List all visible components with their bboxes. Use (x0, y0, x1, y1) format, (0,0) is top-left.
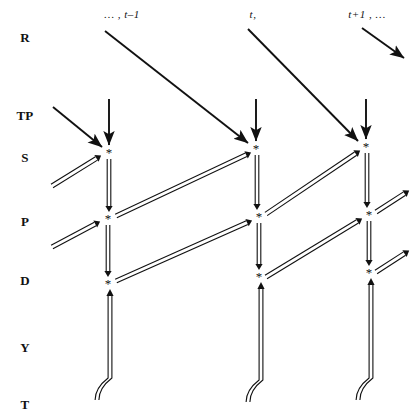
diagram-canvas: RTPSPDYT … , t–1t,t+1 , … ********* (0, 0, 414, 415)
edge-p-t-to-d-tplus1-rail-1 (267, 223, 358, 279)
row-label-s: S (21, 150, 29, 166)
arrowhead-s-tplus1-out (402, 190, 409, 197)
node-s-t: * (253, 142, 260, 155)
arrowhead-p-tplus1-out (402, 250, 409, 257)
node-p-t-minus-1: * (105, 212, 112, 225)
edge-in-to-s-t-minus-1-rail-1 (53, 160, 97, 188)
column-header-t: t, (250, 8, 257, 20)
column-header-t-minus-1: … , t–1 (104, 8, 140, 20)
edge-p-t-to-d-tplus1-rail-0 (265, 220, 356, 276)
column-header-t-plus-1: t+1 , … (348, 8, 386, 20)
edge-r-t-to-s-tplus1 (248, 29, 358, 141)
edge-s-tplus1-out-rail-0 (375, 192, 404, 210)
edge-in-to-s-t-minus-1-rail-0 (51, 157, 95, 185)
edge-r-tplus1-outgoing (362, 28, 404, 58)
row-label-d: D (20, 273, 30, 289)
edge-in-to-p-t-minus-1-rail-1 (53, 226, 96, 249)
edge-t-to-d-t-rail-1 (250, 289, 263, 402)
row-label-p: P (21, 214, 29, 230)
diagram-svg (0, 0, 414, 415)
arrowhead-s-t-to-p-tplus1 (353, 150, 360, 157)
node-d-t: * (256, 270, 263, 283)
feedback-edges-from-t (95, 278, 375, 402)
arrowhead-in-to-s-t-minus-1 (94, 155, 101, 162)
row-label-t: T (21, 397, 30, 413)
edge-p-tplus1-out-rail-1 (377, 255, 406, 273)
edge-s-t-to-p-tplus1-rail-1 (267, 155, 357, 215)
row-label-y: Y (20, 340, 30, 356)
edge-s-tplus1-out-rail-1 (377, 195, 406, 213)
edge-t-to-d-t-plus-1-rail-1 (360, 285, 373, 400)
edge-p-tplus1-out-rail-0 (375, 252, 404, 270)
node-s-t-minus-1: * (106, 146, 113, 159)
edge-t-to-d-t-minus-1-rail-0 (95, 296, 108, 400)
edge-r-tminus1-to-s-t (105, 31, 248, 143)
edge-p-tminus1-to-d-t-rail-1 (117, 224, 248, 282)
edge-p-tminus1-to-d-t-rail-0 (115, 221, 246, 279)
node-d-t-plus-1: * (366, 266, 373, 279)
row-label-r: R (20, 30, 30, 46)
node-d-t-minus-1: * (105, 277, 112, 290)
edge-s-t-to-p-tplus1-rail-0 (265, 152, 355, 212)
node-p-t-plus-1: * (366, 208, 373, 221)
single-line-edges (53, 28, 404, 147)
edge-in-to-p-t-minus-1-rail-0 (51, 222, 94, 245)
edge-s-tminus1-to-p-t-rail-1 (117, 157, 247, 218)
edge-tp-in-from-left (53, 107, 102, 147)
node-p-t: * (256, 210, 263, 223)
edge-s-tminus1-to-p-t-rail-0 (115, 153, 245, 214)
node-s-t-plus-1: * (363, 140, 370, 153)
row-label-tp: TP (16, 108, 33, 124)
